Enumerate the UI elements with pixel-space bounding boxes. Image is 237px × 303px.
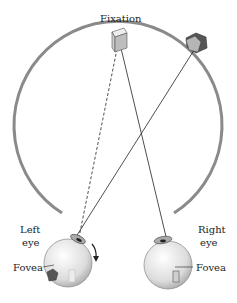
right-fovea-block-image xyxy=(173,271,179,282)
right-eye xyxy=(144,235,192,289)
fixation-object xyxy=(112,28,127,52)
fixation-label: Fixation xyxy=(100,13,142,24)
rotation-arrowhead xyxy=(93,256,99,262)
right-eye-label-line1: Right xyxy=(198,224,226,235)
binocular-vision-diagram: Fixation Left eye Right eye Fovea Fovea xyxy=(0,0,237,303)
peripheral-object xyxy=(186,33,207,53)
left-fovea-label: Fovea xyxy=(13,262,43,273)
left-eye-label-line1: Left xyxy=(20,224,40,235)
left-fovea-block-image xyxy=(69,270,75,282)
rotation-arrow-icon xyxy=(92,244,96,258)
left-eye-label-line2: eye xyxy=(22,237,40,248)
right-eye-label-line2: eye xyxy=(200,237,218,248)
right-fovea-label: Fovea xyxy=(196,262,226,273)
